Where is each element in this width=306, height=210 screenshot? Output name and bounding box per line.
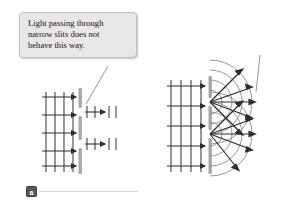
incoming-wavefronts-a	[46, 92, 73, 172]
callout-a: Light passing through narrow slits does …	[19, 12, 137, 58]
radiating-arrows-upper-b	[210, 69, 256, 135]
panel-b: Light passing through narrow slits diffr…	[153, 0, 306, 210]
incoming-rays-a	[42, 95, 76, 168]
callout-a-line3: behave this way.	[28, 40, 129, 51]
callout-a-line2: narrow slits does not	[28, 29, 129, 40]
panel-badge-a: a	[26, 186, 37, 197]
callout-a-line1: Light passing through	[28, 18, 129, 29]
outgoing-beam-1-a	[85, 106, 116, 118]
outgoing-beam-2-a	[85, 138, 116, 150]
incoming-rays-b	[167, 84, 205, 168]
barrier-a	[79, 88, 82, 174]
callout-a-emphasis: not	[88, 29, 99, 39]
label-bar-a: a	[26, 186, 138, 198]
callout-tail-a	[86, 66, 108, 104]
panel-a: Light passing through narrow slits does …	[0, 0, 153, 210]
diagram-b	[153, 0, 306, 210]
barrier-b	[209, 76, 212, 174]
callout-a-line2-pre: narrow slits does	[28, 29, 88, 39]
label-rule-a	[39, 191, 138, 192]
callout-tail-b	[256, 55, 260, 92]
figure-root: Light passing through narrow slits does …	[0, 0, 306, 210]
